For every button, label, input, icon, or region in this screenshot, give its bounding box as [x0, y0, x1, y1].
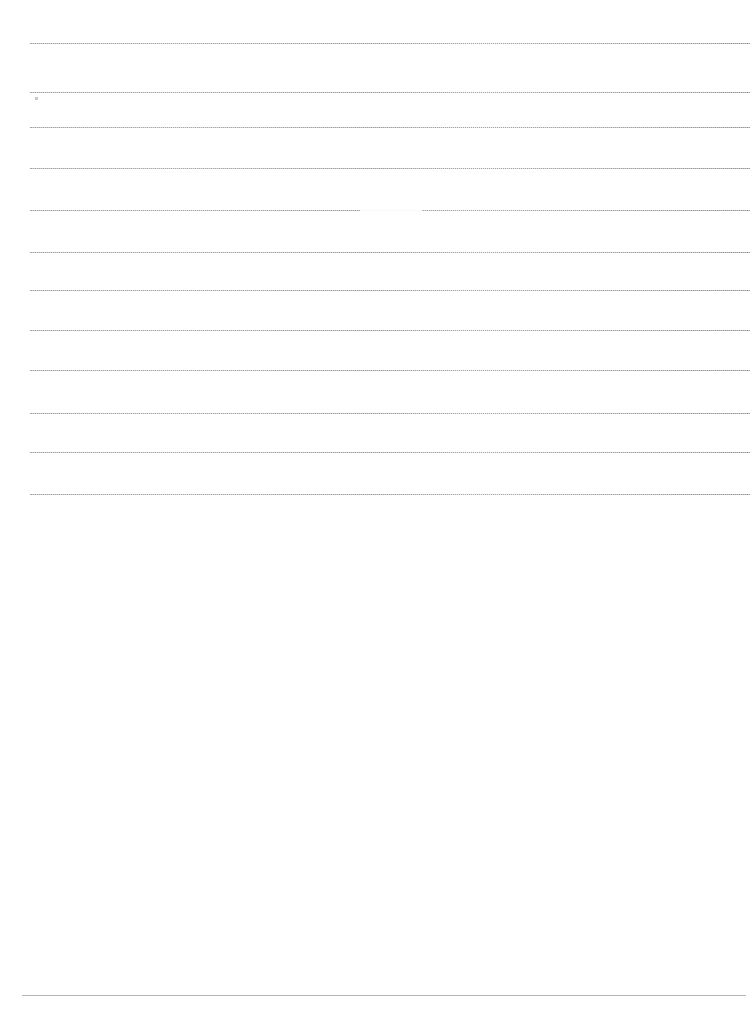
ruled-line [30, 43, 750, 44]
ruled-line [30, 290, 750, 291]
ruled-line [30, 168, 750, 169]
scan-speck-artifact [35, 97, 38, 100]
scanned-page [0, 0, 755, 1034]
ruled-line [30, 210, 750, 211]
ruled-line [30, 494, 750, 495]
ruled-line [30, 92, 750, 93]
footer-horizontal-rule [22, 995, 746, 996]
ruled-line [30, 127, 750, 128]
ruled-line [30, 330, 750, 331]
ruled-line [30, 413, 750, 414]
ruled-line [30, 252, 750, 253]
blank-writing-area [0, 510, 755, 980]
ruled-line [30, 452, 750, 453]
ruled-line [30, 370, 750, 371]
